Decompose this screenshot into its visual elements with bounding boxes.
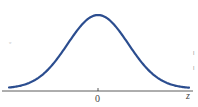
density-curve: [9, 15, 189, 88]
normal-curve-chart: [0, 0, 198, 107]
x-axis-label: z: [186, 91, 190, 101]
x-tick-label-zero: 0: [95, 94, 100, 104]
left-margin-mark: ᵩ: [9, 38, 11, 45]
right-margin-mark-2: ǀ: [193, 65, 194, 72]
right-margin-mark-1: ǀ: [193, 50, 194, 57]
